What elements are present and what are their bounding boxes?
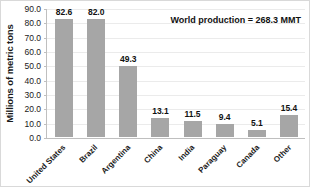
y-axis-title-text: Millions of metric tons — [4, 24, 15, 123]
bar-chart: Millions of metric tons 90.080.070.060.0… — [0, 0, 310, 187]
y-axis-tickmark — [44, 66, 47, 67]
y-axis-tick-label: 0.0 — [29, 133, 41, 143]
bar-slot: 11.5 — [177, 9, 209, 137]
y-axis-tickmark — [44, 9, 47, 10]
bar-value-label: 11.5 — [185, 109, 201, 119]
x-axis-label-slot: Canada — [241, 140, 273, 187]
y-axis-tick-label: 50.0 — [24, 61, 41, 71]
bar-value-label: 82.6 — [56, 7, 73, 17]
bar-value-label: 15.4 — [281, 103, 298, 113]
y-axis-tick-label: 40.0 — [24, 76, 41, 86]
y-axis-tick-label: 30.0 — [24, 90, 41, 100]
world-production-annotation: World production = 268.3 MMT — [170, 15, 301, 25]
y-axis-title: Millions of metric tons — [1, 1, 17, 146]
x-axis-label-slot: United States — [47, 140, 79, 187]
bar-value-label: 9.4 — [219, 112, 231, 122]
y-axis-tick-label: 70.0 — [24, 33, 41, 43]
bar-slot: 82.6 — [48, 9, 80, 137]
y-axis-tickmark — [44, 23, 47, 24]
y-axis-tick-label: 20.0 — [24, 104, 41, 114]
y-axis-tickmark — [44, 95, 47, 96]
y-axis-tick-label: 10.0 — [24, 119, 41, 129]
x-axis-label-slot: Other — [273, 140, 305, 187]
y-axis-tick-label: 60.0 — [24, 47, 41, 57]
y-axis-tick-label: 90.0 — [24, 4, 41, 14]
y-axis-tickmark — [44, 52, 47, 53]
x-axis-label-slot: Argentina — [112, 140, 144, 187]
y-axis-tickmark — [44, 109, 47, 110]
x-axis-label-slot: China — [144, 140, 176, 187]
y-axis-tickmark — [44, 124, 47, 125]
y-axis-tick-label: 80.0 — [24, 18, 41, 28]
y-axis-tick-labels: 90.080.070.060.050.040.030.020.010.00.0 — [17, 9, 43, 139]
bar-value-label: 82.0 — [88, 7, 105, 17]
y-axis-tickmark — [44, 138, 47, 139]
bar-slot: 13.1 — [144, 9, 176, 137]
y-axis-tickmark — [44, 38, 47, 39]
bar-value-label: 49.3 — [120, 54, 137, 64]
y-axis-tickmark — [44, 81, 47, 82]
bar[interactable] — [55, 19, 73, 137]
bar-slot: 9.4 — [209, 9, 241, 137]
x-axis-category-labels: United StatesBrazilArgentinaChinaIndiaPa… — [47, 140, 305, 187]
bar[interactable] — [119, 66, 137, 137]
bar-slot: 49.3 — [112, 9, 144, 137]
bar-slot: 15.4 — [273, 9, 305, 137]
bar-value-label: 13.1 — [152, 106, 169, 116]
